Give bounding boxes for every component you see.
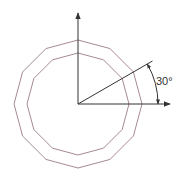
angle-ray-30deg	[78, 61, 152, 104]
angle-label: 30°	[156, 75, 173, 87]
dodecagon-diagram: 30°	[0, 0, 181, 176]
